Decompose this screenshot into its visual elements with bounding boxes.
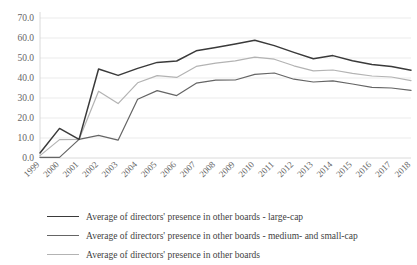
line-chart: 0.010.020.030.040.050.060.070.0199920002… bbox=[0, 0, 417, 265]
x-axis-tick-label: 2003 bbox=[100, 159, 120, 179]
x-axis-tick-label: 2015 bbox=[334, 159, 354, 179]
series-line-1 bbox=[40, 73, 411, 157]
x-axis-tick-label: 2004 bbox=[119, 159, 139, 179]
chart-plot-area: 0.010.020.030.040.050.060.070.0199920002… bbox=[0, 0, 417, 207]
x-axis-tick-label: 2016 bbox=[354, 159, 374, 179]
y-axis-tick-label: 10.0 bbox=[17, 133, 34, 143]
y-axis-tick-label: 70.0 bbox=[17, 13, 34, 23]
y-axis-tick-label: 60.0 bbox=[17, 33, 34, 43]
legend-item-label: Average of directors' presence in other … bbox=[86, 212, 303, 222]
legend-item[interactable]: Average of directors' presence in other … bbox=[0, 245, 417, 264]
x-axis-tick-label: 2012 bbox=[275, 159, 295, 179]
legend-line-swatch bbox=[47, 235, 79, 236]
legend-item-label: Average of directors' presence in other … bbox=[86, 231, 358, 241]
x-axis-tick-label: 2011 bbox=[256, 159, 276, 179]
legend-line-swatch bbox=[47, 216, 79, 217]
x-axis-tick-label: 2001 bbox=[61, 159, 81, 179]
chart-legend: Average of directors' presence in other … bbox=[0, 207, 417, 264]
x-axis-tick-label: 2014 bbox=[315, 159, 335, 179]
legend-item[interactable]: Average of directors' presence in other … bbox=[0, 226, 417, 245]
legend-item-label: Average of directors' presence in other … bbox=[86, 250, 260, 260]
y-axis-tick-label: 30.0 bbox=[17, 93, 34, 103]
x-axis-tick-label: 2006 bbox=[158, 159, 178, 179]
legend-line-swatch bbox=[47, 254, 79, 255]
x-axis-tick-label: 2007 bbox=[178, 159, 198, 179]
series-line-2 bbox=[40, 57, 411, 155]
x-axis-tick-label: 2005 bbox=[139, 159, 159, 179]
x-axis-tick-label: 2009 bbox=[217, 159, 237, 179]
x-axis-tick-label: 2018 bbox=[393, 159, 413, 179]
legend-item[interactable]: Average of directors' presence in other … bbox=[0, 207, 417, 226]
x-axis-tick-label: 2008 bbox=[197, 159, 217, 179]
y-axis-tick-label: 50.0 bbox=[17, 53, 34, 63]
y-axis-tick-label: 20.0 bbox=[17, 113, 34, 123]
y-axis-tick-label: 40.0 bbox=[17, 73, 34, 83]
x-axis-tick-label: 2010 bbox=[236, 159, 256, 179]
x-axis-tick-label: 2002 bbox=[80, 159, 100, 179]
x-axis-tick-label: 2013 bbox=[295, 159, 315, 179]
x-axis-tick-label: 2017 bbox=[373, 159, 393, 179]
x-axis-tick-label: 2000 bbox=[41, 159, 61, 179]
